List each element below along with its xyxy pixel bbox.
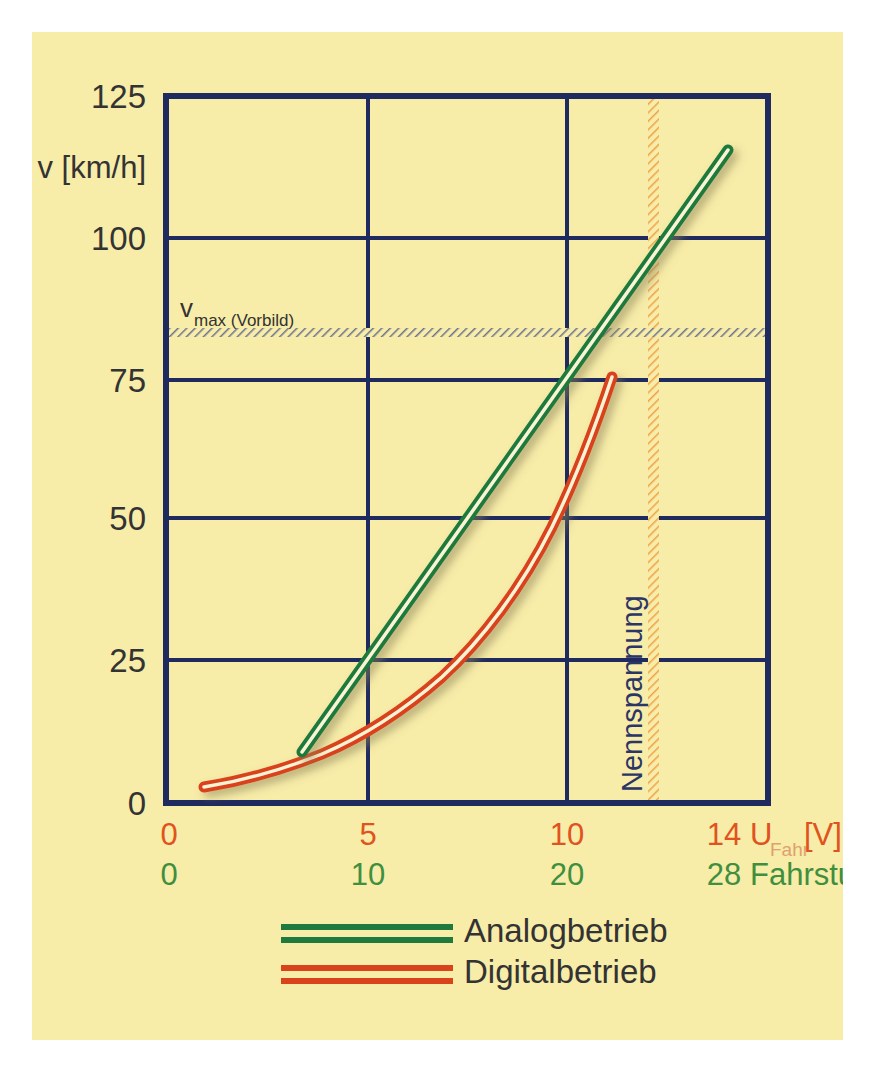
x-green-tick-20: 20: [550, 857, 584, 892]
speed-voltage-chart: 125 100 75 50 25 0 v [km/h] v max (Vorbi…: [32, 32, 843, 1040]
y-tick-75: 75: [109, 362, 146, 399]
vmax-label-sub: max (Vorbild): [194, 311, 294, 330]
legend-item-digitalbetrieb[interactable]: Digitalbetrieb: [281, 953, 657, 990]
x-red-tick-5: 5: [359, 817, 376, 852]
chart-panel: 125 100 75 50 25 0 v [km/h] v max (Vorbi…: [32, 32, 843, 1040]
nennspannung-band: [648, 96, 659, 803]
x-red-tick-14: 14: [707, 817, 741, 852]
vmax-label-main: v: [180, 293, 193, 323]
x-red-tick-0: 0: [160, 817, 177, 852]
legend-label-digital: Digitalbetrieb: [464, 953, 657, 990]
y-tick-25: 25: [109, 642, 146, 679]
digital-curve-outer: [204, 377, 612, 787]
vmax-label: v max (Vorbild): [180, 293, 294, 330]
legend-item-analogbetrieb[interactable]: Analogbetrieb: [281, 912, 668, 949]
y-axis-tick-labels: 125 100 75 50 25 0: [91, 78, 146, 822]
y-tick-100: 100: [91, 220, 146, 257]
series-digitalbetrieb: [204, 377, 612, 787]
y-tick-50: 50: [109, 500, 146, 537]
legend-label-analog: Analogbetrieb: [464, 912, 668, 949]
digital-curve-inner-gap: [204, 377, 612, 787]
chart-page: 125 100 75 50 25 0 v [km/h] v max (Vorbi…: [0, 0, 886, 1070]
legend: Analogbetrieb Digitalbetrieb: [281, 912, 668, 990]
x-axis-red-ticks: 0 5 10 14: [160, 817, 741, 852]
y-tick-0: 0: [128, 785, 146, 822]
x-red-tick-10: 10: [550, 817, 584, 852]
x-green-tick-10: 10: [351, 857, 385, 892]
x-green-tick-0: 0: [160, 857, 177, 892]
nennspannung-label: Nennspannung: [616, 595, 648, 792]
x-green-tick-28: 28: [707, 857, 741, 892]
y-tick-125: 125: [91, 78, 146, 115]
x-axis-green-title: Fahrstufe: [750, 857, 843, 892]
grid-lines: [166, 96, 768, 803]
x-axis-green-ticks: 0 10 20 28: [160, 857, 741, 892]
x-axis-red-title: U Fahr [V]: [750, 817, 842, 860]
plot-frame: [166, 96, 768, 803]
x-red-title-unit: [V]: [804, 817, 842, 852]
y-axis-title: v [km/h]: [37, 150, 146, 185]
